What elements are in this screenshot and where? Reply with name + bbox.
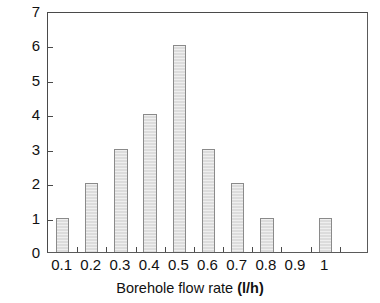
x-axis-tick-label: 0.1	[47, 256, 76, 274]
histogram-chart: Frequency 01234567 0.10.20.30.40.50.60.7…	[0, 0, 380, 303]
x-axis-tick-label: 0.4	[135, 256, 164, 274]
bar	[319, 218, 332, 252]
x-axis-title-unit: (l/h)	[237, 280, 264, 296]
y-axis-tick-label: 5	[18, 73, 40, 88]
x-axis-tick-label: 0.2	[76, 256, 105, 274]
y-axis-tick-label: 0	[18, 245, 40, 260]
x-axis-tick-labels: 0.10.20.30.40.50.60.70.80.91	[47, 256, 368, 278]
bar	[173, 45, 186, 252]
y-axis-tick-label: 6	[18, 38, 40, 53]
y-axis-tick-label: 3	[18, 142, 40, 157]
bar	[56, 218, 69, 252]
x-axis-tick-label: 0.7	[222, 256, 251, 274]
y-axis-tick-label: 2	[18, 176, 40, 191]
y-axis-tick-label: 4	[18, 107, 40, 122]
x-axis-tick-label: 1	[310, 256, 339, 274]
bar	[143, 114, 156, 252]
bar	[202, 149, 215, 252]
x-axis-tick-label: 0.6	[193, 256, 222, 274]
y-axis-tick-label: 1	[18, 211, 40, 226]
bar	[231, 183, 244, 252]
x-axis-tick-label: 0.5	[164, 256, 193, 274]
bar	[114, 149, 127, 252]
bars-layer	[48, 13, 367, 252]
x-axis-title-main: Borehole flow rate	[116, 280, 233, 296]
x-axis-tick-label: 0.3	[105, 256, 134, 274]
x-axis-tick-label: 0.9	[280, 256, 309, 274]
plot-area	[47, 12, 368, 253]
x-axis-tick-label: 0.8	[251, 256, 280, 274]
y-axis-tick-label: 7	[18, 4, 40, 19]
y-axis-tick-labels: 01234567	[10, 0, 40, 303]
x-axis-title: Borehole flow rate (l/h)	[0, 279, 380, 297]
bar	[260, 218, 273, 252]
bar	[85, 183, 98, 252]
